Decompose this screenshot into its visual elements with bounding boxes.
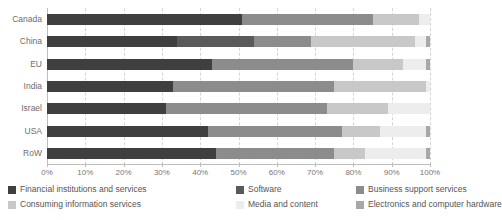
bar-segment (426, 81, 430, 92)
x-axis-tick-label: 90% (384, 167, 400, 179)
bar-segment (342, 126, 380, 137)
bar-row (47, 81, 430, 92)
legend-item[interactable]: Media and content (236, 199, 318, 210)
legend-item[interactable]: Financial institutions and services (8, 184, 147, 195)
bar-segment (254, 36, 311, 47)
bar-segment (419, 14, 430, 25)
bar-segment (47, 81, 173, 92)
bar-segment (426, 126, 430, 137)
bar-segment (426, 148, 430, 159)
plot-area (47, 8, 430, 165)
legend-item[interactable]: Business support services (356, 184, 467, 195)
legend-swatch-icon (236, 201, 244, 209)
bar-segment (173, 81, 334, 92)
legend-item[interactable]: Software (236, 184, 282, 195)
bar-segment (177, 36, 254, 47)
y-axis-category-labels: CanadaChinaEUIndiaIsraelUSARoW (0, 8, 43, 165)
bar-segment (212, 59, 354, 70)
bar-row (47, 126, 430, 137)
y-axis-category-label: RoW (0, 148, 42, 159)
y-axis-category-label: India (0, 81, 42, 92)
legend-label: Business support services (368, 184, 467, 195)
x-axis-tick-label: 80% (345, 167, 361, 179)
bar-segment (242, 14, 372, 25)
x-axis-tick-label: 30% (154, 167, 170, 179)
y-axis-category-label: USA (0, 126, 42, 137)
x-axis-tick-label: 0% (41, 167, 53, 179)
legend-item[interactable]: Consuming information services (8, 199, 141, 210)
legend-swatch-icon (236, 186, 244, 194)
bar-segment (327, 103, 388, 114)
bar-segment (47, 14, 242, 25)
legend-swatch-icon (356, 186, 364, 194)
bar-segment (311, 36, 414, 47)
bar-row (47, 14, 430, 25)
gridline (430, 8, 432, 165)
bar-segment (47, 126, 208, 137)
legend-row-2: Consuming information servicesMedia and … (8, 198, 448, 213)
y-axis-category-label: China (0, 36, 42, 47)
bar-segment (380, 126, 426, 137)
x-axis-tick-label: 20% (116, 167, 132, 179)
bar-segment (353, 59, 403, 70)
bar-segment (216, 148, 335, 159)
y-axis-category-label: EU (0, 59, 42, 70)
x-axis-tick-labels: 0%10%20%30%40%50%60%70%80%90%100% (47, 167, 430, 181)
bar-segment (388, 103, 430, 114)
bar-segment (373, 14, 419, 25)
y-axis-category-label: Canada (0, 14, 42, 25)
legend-swatch-icon (8, 186, 16, 194)
bar-row (47, 148, 430, 159)
bar-segment (365, 148, 426, 159)
x-axis-tick-label: 50% (230, 167, 246, 179)
legend-swatch-icon (8, 201, 16, 209)
bar-segment (47, 103, 166, 114)
bar-row (47, 103, 430, 114)
x-axis-tick-label: 70% (307, 167, 323, 179)
bar-segment (47, 36, 177, 47)
bar-segment (426, 59, 430, 70)
bar-segment (415, 36, 426, 47)
legend-swatch-icon (356, 201, 364, 209)
legend-label: Software (248, 184, 282, 195)
bar-segment (47, 148, 216, 159)
bar-segment (334, 148, 365, 159)
bar-rows (47, 8, 430, 165)
bar-row (47, 36, 430, 47)
legend-row-1: Financial institutions and servicesSoftw… (8, 183, 448, 198)
bar-segment (166, 103, 327, 114)
legend-label: Electronics and computer hardware (368, 199, 502, 210)
y-axis-category-label: Israel (0, 103, 42, 114)
legend-label: Consuming information services (20, 199, 141, 210)
bar-segment (426, 36, 430, 47)
bar-segment (47, 59, 212, 70)
bar-row (47, 59, 430, 70)
bar-segment (403, 59, 426, 70)
legend-label: Media and content (248, 199, 318, 210)
x-axis-tick-label: 10% (77, 167, 93, 179)
legend-item[interactable]: Electronics and computer hardware (356, 199, 502, 210)
x-axis-tick-label: 40% (192, 167, 208, 179)
bar-segment (208, 126, 342, 137)
legend-label: Financial institutions and services (20, 184, 147, 195)
bar-segment (334, 81, 426, 92)
x-axis-tick-label: 100% (420, 167, 440, 179)
x-axis-tick-label: 60% (269, 167, 285, 179)
chart-legend: Financial institutions and servicesSoftw… (8, 183, 448, 215)
